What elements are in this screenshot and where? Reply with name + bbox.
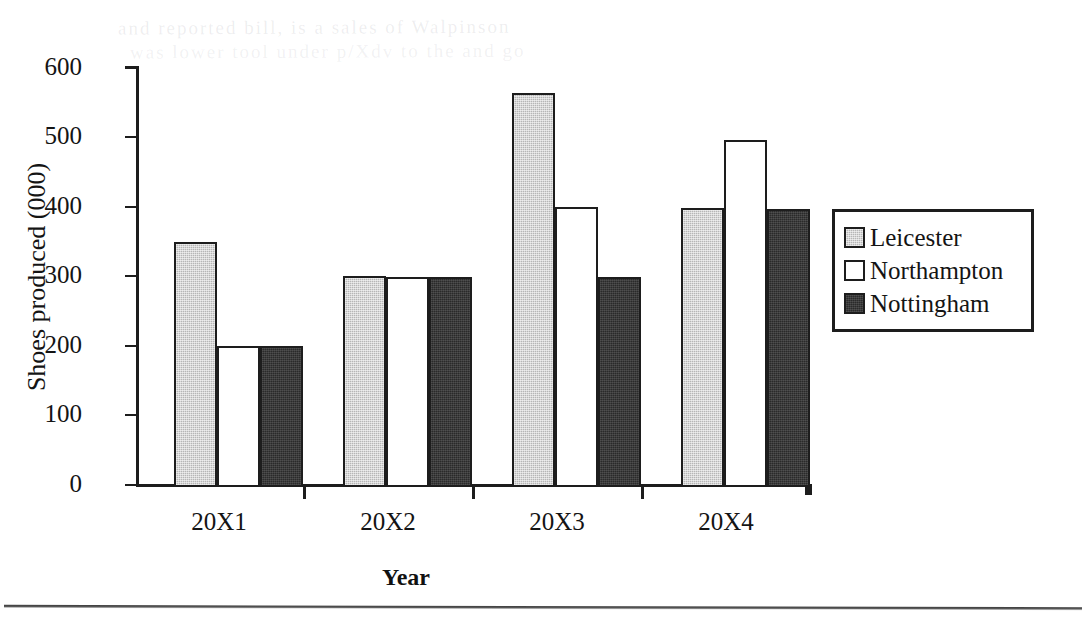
legend-item-northampton: Northampton — [844, 254, 1025, 287]
bar-northampton-20x2 — [386, 277, 429, 487]
gray-swatch-icon — [844, 227, 865, 248]
legend-label-northampton: Northampton — [870, 257, 1003, 284]
scanned-page: and reported bill, is a sales of Walpins… — [0, 0, 1086, 626]
bar-northampton-20x1 — [217, 346, 260, 487]
bar-leicester-20x4 — [681, 208, 724, 487]
y-tick-100 — [125, 414, 137, 416]
y-tick-300 — [125, 275, 137, 277]
chart-legend: Leicester Northampton Nottingham — [832, 209, 1034, 332]
bar-leicester-20x3 — [512, 93, 555, 487]
bar-nottingham-20x2 — [429, 277, 472, 487]
bar-chart: 600 500 400 300 200 100 0 20X1 20X2 20X3… — [0, 0, 1086, 626]
y-tick-label-600: 600 — [0, 54, 82, 79]
x-tick-1 — [303, 487, 306, 499]
y-tick-label-0: 0 — [0, 471, 82, 496]
x-tick-2 — [472, 487, 475, 499]
x-tick-label-20x3: 20X3 — [477, 508, 637, 536]
black-swatch-icon — [844, 293, 865, 314]
bar-northampton-20x3 — [555, 207, 598, 487]
bar-nottingham-20x1 — [260, 346, 303, 487]
x-tick-label-20x4: 20X4 — [646, 508, 806, 536]
legend-item-nottingham: Nottingham — [844, 287, 1025, 320]
x-axis-title: Year — [306, 563, 506, 591]
bar-leicester-20x2 — [343, 276, 386, 487]
y-tick-200 — [125, 345, 137, 347]
bar-leicester-20x1 — [174, 242, 217, 487]
bar-nottingham-20x3 — [598, 277, 641, 487]
x-tick-label-20x2: 20X2 — [308, 508, 468, 536]
y-axis-title: Shoes produced (000) — [22, 112, 52, 442]
y-tick-500 — [125, 136, 137, 138]
legend-label-leicester: Leicester — [870, 224, 962, 251]
y-tick-600 — [125, 67, 137, 69]
legend-item-leicester: Leicester — [844, 221, 1025, 254]
x-tick-3 — [641, 487, 644, 499]
white-swatch-icon — [844, 260, 865, 281]
x-tick-label-20x1: 20X1 — [139, 508, 299, 536]
y-tick-400 — [125, 206, 137, 208]
legend-label-nottingham: Nottingham — [870, 290, 989, 317]
y-tick-0 — [125, 484, 137, 486]
bar-northampton-20x4 — [724, 140, 767, 487]
bar-nottingham-20x4 — [767, 209, 810, 487]
